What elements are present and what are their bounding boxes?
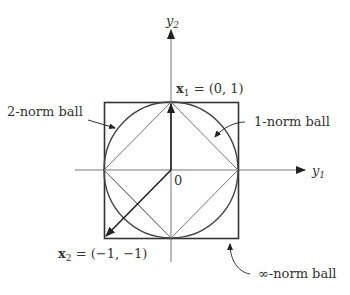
two-norm-pointer [88, 120, 115, 128]
inf-norm-pointer [230, 244, 250, 274]
norm-balls-diagram [0, 0, 350, 295]
inf-norm-label: ∞-norm ball [258, 267, 336, 280]
y1-axis-label: y1 [312, 164, 325, 180]
two-norm-label: 2-norm ball [7, 105, 83, 118]
one-norm-label: 1-norm ball [254, 115, 330, 128]
origin-label: 0 [174, 174, 182, 187]
x1-point-label: x1 = (0, 1) [176, 82, 244, 98]
x2-point-label: x2 = (−1, −1) [58, 247, 147, 263]
x2-vector [106, 170, 171, 236]
one-norm-pointer [215, 122, 245, 137]
y2-axis-label: y2 [166, 14, 179, 30]
